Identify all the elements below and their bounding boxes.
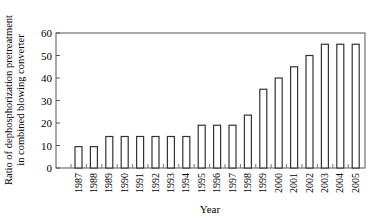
x-tick-label: 1987 (73, 173, 84, 193)
bar-1992 (152, 137, 159, 169)
x-tick-label: 2000 (273, 173, 284, 193)
y-tick-label: 30 (41, 95, 53, 107)
bar-1989 (106, 137, 113, 169)
y-tick-label: 60 (41, 27, 53, 39)
y-tick-label: 10 (41, 140, 53, 152)
bar-1994 (183, 137, 190, 169)
y-axis-label-line: in combined blowing converter (15, 34, 26, 166)
bar-1999 (260, 89, 267, 168)
x-tick-label: 1995 (196, 173, 207, 193)
bar-1990 (121, 137, 128, 169)
bar-1997 (229, 125, 236, 168)
x-tick-label: 1997 (227, 173, 238, 193)
bars (75, 44, 359, 168)
bar-2005 (352, 44, 359, 168)
x-tick-label: 2004 (334, 173, 345, 193)
x-axis-label: Year (200, 203, 221, 215)
x-tick-label: 2003 (319, 173, 330, 193)
x-tick-label: 1999 (257, 173, 268, 193)
bar-1996 (214, 125, 221, 168)
y-tick-label: 50 (41, 50, 53, 62)
x-tick-label: 1994 (180, 173, 191, 193)
x-tick-label: 1996 (211, 173, 222, 193)
x-tick-label: 1991 (134, 173, 145, 193)
bar-1991 (137, 137, 144, 169)
bar-2001 (291, 67, 298, 168)
bar-1987 (75, 147, 82, 168)
x-tick-label: 1988 (88, 173, 99, 193)
y-tick-label: 40 (41, 72, 53, 84)
x-tick-label: 1993 (165, 173, 176, 193)
y-tick-label: 0 (47, 162, 53, 174)
y-tick-label: 20 (41, 117, 53, 129)
x-tick-label: 1990 (119, 173, 130, 193)
plot-frame (56, 33, 365, 168)
y-axis-ticks: 0102030405060 (41, 27, 60, 174)
x-tick-label: 2001 (288, 173, 299, 193)
bar-chart: Ratio of dephosphorization pretreatmenti… (0, 0, 378, 219)
y-axis-label-line: Ratio of dephosphorization pretreatment (3, 15, 14, 185)
x-tick-label: 2005 (350, 173, 361, 193)
bar-2000 (275, 78, 282, 168)
x-tick-label: 1998 (242, 173, 253, 193)
x-tick-label: 1992 (150, 173, 161, 193)
y-axis-label: Ratio of dephosphorization pretreatmenti… (3, 15, 26, 185)
bar-1993 (167, 137, 174, 169)
bar-1988 (90, 147, 97, 168)
bar-2004 (337, 44, 344, 168)
x-tick-label: 2002 (304, 173, 315, 193)
bar-1998 (244, 115, 251, 168)
x-tick-label: 1989 (103, 173, 114, 193)
bar-2002 (306, 56, 313, 169)
bar-2003 (321, 44, 328, 168)
bar-1995 (198, 125, 205, 168)
